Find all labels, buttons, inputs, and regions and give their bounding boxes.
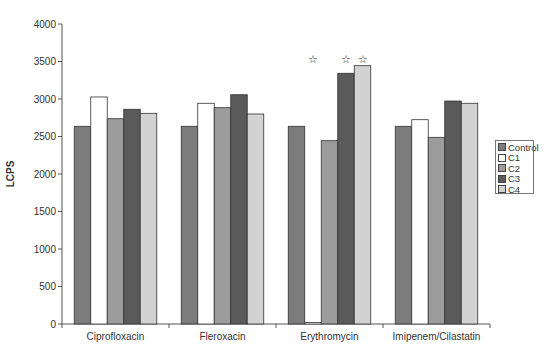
y-tick-label: 0 <box>50 319 56 330</box>
legend-label: C1 <box>508 152 520 163</box>
bar-control-erythromycin <box>288 126 305 324</box>
x-category-label: Fleroxacin <box>199 331 245 342</box>
y-tick-label: 2000 <box>34 169 57 180</box>
bar-c4-erythromycin <box>354 66 371 324</box>
bar-control-imipenem-cilastatin <box>395 126 412 324</box>
bar-c2-ciprofloxacin <box>107 119 124 324</box>
y-tick-label: 500 <box>39 281 56 292</box>
bar-c2-erythromycin <box>321 141 338 324</box>
bar-c1-imipenem-cilastatin <box>412 120 429 324</box>
y-tick-label: 2500 <box>34 131 57 142</box>
bar-c4-ciprofloxacin <box>140 113 157 324</box>
x-axis: CiprofloxacinFleroxacinErythromycinImipe… <box>62 324 490 342</box>
significance-star-icon: ☆ <box>358 53 368 65</box>
bar-c1-erythromycin <box>305 323 322 325</box>
bar-c2-fleroxacin <box>214 108 231 324</box>
legend-item-c3: C3 <box>498 174 533 185</box>
legend-label: Control <box>508 142 539 153</box>
bar-c1-fleroxacin <box>198 103 215 324</box>
bar-c4-fleroxacin <box>247 114 264 324</box>
annotations: ☆☆☆ <box>308 53 368 65</box>
y-tick-label: 3000 <box>34 94 57 105</box>
legend-swatch-control <box>498 143 506 151</box>
significance-star-icon: ☆ <box>341 53 351 65</box>
bar-control-ciprofloxacin <box>74 126 91 324</box>
bar-c3-imipenem-cilastatin <box>445 101 462 324</box>
legend-label: C4 <box>508 184 520 195</box>
bar-c1-ciprofloxacin <box>91 97 108 324</box>
bars <box>74 66 478 324</box>
y-tick-label: 4000 <box>34 19 57 30</box>
legend-item-c4: C4 <box>498 184 533 195</box>
legend-swatch-c1 <box>498 154 506 162</box>
legend-label: C3 <box>508 173 520 184</box>
bar-c3-fleroxacin <box>231 95 248 324</box>
bar-c3-erythromycin <box>338 73 355 324</box>
legend-swatch-c4 <box>498 185 506 193</box>
y-tick-label: 3500 <box>34 56 57 67</box>
bar-control-fleroxacin <box>181 126 198 324</box>
legend-item-control: Control <box>498 142 533 153</box>
legend-label: C2 <box>508 163 520 174</box>
x-category-label: Imipenem/Cilastatin <box>393 331 481 342</box>
significance-star-icon: ☆ <box>308 53 318 65</box>
bar-chart: 05001000150020002500300035004000 Ciprofl… <box>0 0 559 359</box>
bar-c3-ciprofloxacin <box>124 109 141 324</box>
bar-c2-imipenem-cilastatin <box>428 137 445 324</box>
legend-item-c2: C2 <box>498 163 533 174</box>
y-tick-label: 1500 <box>34 206 57 217</box>
bar-c4-imipenem-cilastatin <box>461 103 478 324</box>
legend-swatch-c3 <box>498 175 506 183</box>
y-axis-title: LCPS <box>5 160 16 187</box>
legend-swatch-c2 <box>498 164 506 172</box>
legend-item-c1: C1 <box>498 153 533 164</box>
y-axis: 05001000150020002500300035004000 <box>34 19 62 330</box>
x-category-label: Erythromycin <box>300 331 358 342</box>
y-tick-label: 1000 <box>34 244 57 255</box>
legend: Control C1 C2 C3 C4 <box>495 140 534 194</box>
x-category-label: Ciprofloxacin <box>87 331 145 342</box>
